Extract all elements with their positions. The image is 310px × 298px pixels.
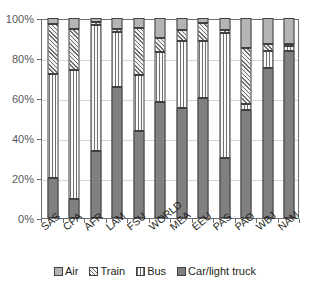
bar-segment-bus[interactable] [219, 33, 230, 158]
stacked-bar[interactable] [90, 20, 101, 218]
stacked-bar[interactable] [112, 20, 123, 218]
bar-slot [236, 20, 258, 218]
stacked-bar[interactable] [47, 20, 58, 218]
bar-segment-air[interactable] [198, 18, 209, 23]
y-tick-mark [37, 139, 41, 140]
legend-item-train[interactable]: Train [89, 266, 125, 277]
legend-label: Train [100, 266, 125, 277]
bar-slot [171, 20, 193, 218]
stacked-bar[interactable] [262, 20, 273, 218]
bar-segment-bus[interactable] [262, 51, 273, 68]
bar-slot [85, 20, 107, 218]
bar-slot [42, 20, 64, 218]
bar-segment-train[interactable] [262, 44, 273, 51]
bar-segment-bus[interactable] [284, 46, 295, 51]
bar-slot [214, 20, 236, 218]
y-axis: 0%20%40%60%80%100% [0, 19, 38, 219]
y-tick-mark [37, 179, 41, 180]
bar-segment-car[interactable] [155, 102, 166, 218]
bar-segment-train[interactable] [69, 29, 80, 70]
bar-segment-air[interactable] [90, 18, 101, 22]
bar-segment-bus[interactable] [133, 75, 144, 131]
legend-label: Air [65, 266, 78, 277]
legend-swatch-bus-icon [136, 267, 145, 276]
bar-segment-train[interactable] [133, 28, 144, 75]
bar-segment-air[interactable] [155, 18, 166, 38]
bar-segment-car[interactable] [133, 131, 144, 218]
stacked-bar[interactable] [284, 20, 295, 218]
y-tick-mark [37, 59, 41, 60]
bar-segment-bus[interactable] [155, 52, 166, 102]
bar-segment-air[interactable] [284, 18, 295, 44]
y-tick-mark [37, 19, 41, 20]
bar-segment-train[interactable] [90, 22, 101, 25]
y-tick-label: 0% [18, 214, 34, 225]
bar-segment-car[interactable] [262, 68, 273, 218]
bar-segment-train[interactable] [219, 30, 230, 33]
y-tick-mark [37, 99, 41, 100]
bar-segment-air[interactable] [69, 18, 80, 29]
y-tick-label: 80% [12, 54, 34, 65]
bar-segment-train[interactable] [241, 48, 252, 104]
y-tick-label: 20% [12, 174, 34, 185]
stacked-bar[interactable] [219, 20, 230, 218]
legend-swatch-air-icon [54, 267, 63, 276]
y-tick-label: 60% [12, 94, 34, 105]
bar-segment-car[interactable] [198, 98, 209, 218]
bar-segment-bus[interactable] [198, 41, 209, 98]
bar-segment-air[interactable] [112, 18, 123, 29]
bar-slot [257, 20, 279, 218]
bar-segment-car[interactable] [219, 158, 230, 218]
plot-area [41, 19, 299, 219]
y-tick-label: 40% [12, 134, 34, 145]
stacked-bar[interactable] [176, 20, 187, 218]
bar-slot [193, 20, 215, 218]
legend-swatch-car-icon [177, 267, 186, 276]
stacked-bar[interactable] [241, 20, 252, 218]
bar-segment-car[interactable] [112, 87, 123, 218]
bar-segment-car[interactable] [241, 110, 252, 218]
bar-segment-air[interactable] [262, 18, 273, 44]
bar-segment-train[interactable] [284, 44, 295, 46]
bar-segment-air[interactable] [176, 18, 187, 30]
stacked-bar[interactable] [69, 20, 80, 218]
bar-segment-car[interactable] [284, 51, 295, 218]
bar-segment-car[interactable] [90, 151, 101, 218]
bar-slot [128, 20, 150, 218]
legend-item-air[interactable]: Air [54, 266, 78, 277]
legend-item-car[interactable]: Car/light truck [177, 266, 256, 277]
stacked-bar[interactable] [198, 20, 209, 218]
bar-segment-bus[interactable] [90, 25, 101, 151]
bar-slot [279, 20, 301, 218]
stacked-bar-chart: 0%20%40%60%80%100% AirTrainBusCar/light … [0, 0, 310, 298]
bar-segment-bus[interactable] [112, 32, 123, 87]
bar-segment-bus[interactable] [69, 70, 80, 199]
bar-segment-bus[interactable] [176, 41, 187, 108]
bar-segment-air[interactable] [219, 18, 230, 30]
y-tick-label: 100% [6, 14, 34, 25]
legend-item-bus[interactable]: Bus [136, 266, 166, 277]
stacked-bar[interactable] [133, 20, 144, 218]
bar-segment-air[interactable] [47, 18, 58, 24]
bar-segment-train[interactable] [176, 30, 187, 41]
x-tick-mark [299, 219, 300, 223]
bar-segment-train[interactable] [198, 23, 209, 41]
bar-segment-train[interactable] [155, 38, 166, 52]
legend-label: Car/light truck [188, 266, 256, 277]
bar-slot [64, 20, 86, 218]
legend-swatch-train-icon [89, 267, 98, 276]
bar-segment-bus[interactable] [47, 74, 58, 178]
bar-segment-bus[interactable] [241, 104, 252, 110]
bar-segment-train[interactable] [47, 24, 58, 74]
bar-segment-train[interactable] [112, 29, 123, 32]
bar-slot [107, 20, 129, 218]
bar-slot [150, 20, 172, 218]
legend-label: Bus [147, 266, 166, 277]
bar-segment-air[interactable] [133, 18, 144, 28]
stacked-bar[interactable] [155, 20, 166, 218]
bar-segment-air[interactable] [241, 18, 252, 48]
chart-legend: AirTrainBusCar/light truck [0, 266, 310, 277]
